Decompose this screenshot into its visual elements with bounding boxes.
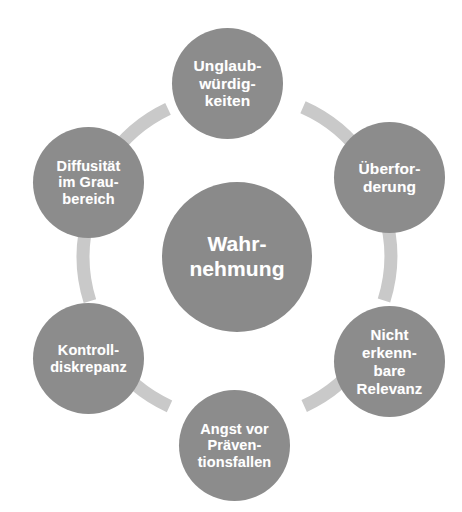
node-kontrolldiskrepanz[interactable]: Kontroll- diskrepanz xyxy=(33,303,144,414)
cycle-diagram: Wahr- nehmung Unglaub- würdig- keiten Üb… xyxy=(0,0,462,512)
node-angst-vor-praeventionsfallen[interactable]: Angst vor Präven- tionsfallen xyxy=(179,390,290,501)
node-unglaubwuerdigkeiten[interactable]: Unglaub- würdig- keiten xyxy=(172,28,283,139)
node-label-unglaubwuerdigkeiten: Unglaub- würdig- keiten xyxy=(194,57,262,110)
node-label-nicht-erkennbare-relevanz: Nicht erkenn- bare Relevanz xyxy=(357,326,423,398)
node-label-ueberforderung: Überfor- derung xyxy=(359,160,421,195)
center-node-label: Wahr- nehmung xyxy=(189,232,284,282)
node-label-diffusitaet-im-graubereich: Diffusität im Grau- bereich xyxy=(57,158,121,208)
node-label-angst-vor-praeventionsfallen: Angst vor Präven- tionsfallen xyxy=(198,421,272,471)
node-diffusitaet-im-graubereich[interactable]: Diffusität im Grau- bereich xyxy=(33,127,144,238)
node-nicht-erkennbare-relevanz[interactable]: Nicht erkenn- bare Relevanz xyxy=(334,306,445,417)
node-ueberforderung[interactable]: Überfor- derung xyxy=(334,122,445,233)
node-label-kontrolldiskrepanz: Kontroll- diskrepanz xyxy=(50,342,127,375)
center-node-wahrnehmung[interactable]: Wahr- nehmung xyxy=(162,182,312,332)
